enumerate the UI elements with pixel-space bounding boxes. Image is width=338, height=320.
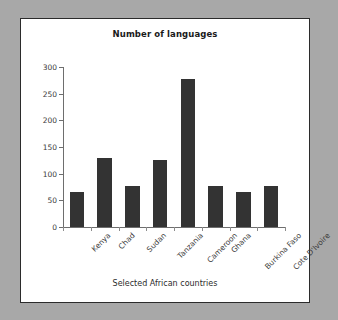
x-tick xyxy=(202,227,203,231)
x-tick xyxy=(91,227,92,231)
bar xyxy=(70,192,84,227)
bar xyxy=(264,186,278,227)
y-tick-label: 50 xyxy=(47,196,57,205)
x-tick xyxy=(174,227,175,231)
x-tick-label: Sudan xyxy=(145,231,168,254)
y-tick xyxy=(59,120,63,121)
x-tick xyxy=(146,227,147,231)
y-tick-label: 200 xyxy=(43,116,57,125)
bar xyxy=(208,186,222,227)
x-tick-label: Tanzania xyxy=(176,231,205,260)
bar xyxy=(181,79,195,227)
x-tick xyxy=(119,227,120,231)
chart-title: Number of languages xyxy=(21,29,309,39)
bar xyxy=(153,160,167,227)
y-tick-label: 150 xyxy=(43,143,57,152)
y-tick-label: 300 xyxy=(43,63,57,72)
y-axis-line xyxy=(63,67,64,227)
y-tick-label: 100 xyxy=(43,169,57,178)
x-tick-label: Kenya xyxy=(90,231,113,254)
y-tick xyxy=(59,94,63,95)
x-tick xyxy=(257,227,258,231)
x-tick xyxy=(230,227,231,231)
x-tick xyxy=(63,227,64,231)
x-axis-title: Selected African countries xyxy=(21,279,309,288)
bar xyxy=(97,158,111,227)
y-tick xyxy=(59,174,63,175)
bar xyxy=(125,186,139,227)
y-tick xyxy=(59,67,63,68)
chart-panel: Number of languages 050100150200250300 K… xyxy=(20,18,310,303)
plot-area: 050100150200250300 KenyaChadSudanTanzani… xyxy=(63,67,285,227)
x-tick xyxy=(285,227,286,231)
y-tick-label: 0 xyxy=(52,223,57,232)
y-tick xyxy=(59,147,63,148)
y-tick-label: 250 xyxy=(43,89,57,98)
x-tick-label: Chad xyxy=(116,231,136,251)
bar xyxy=(236,192,250,227)
y-tick xyxy=(59,200,63,201)
